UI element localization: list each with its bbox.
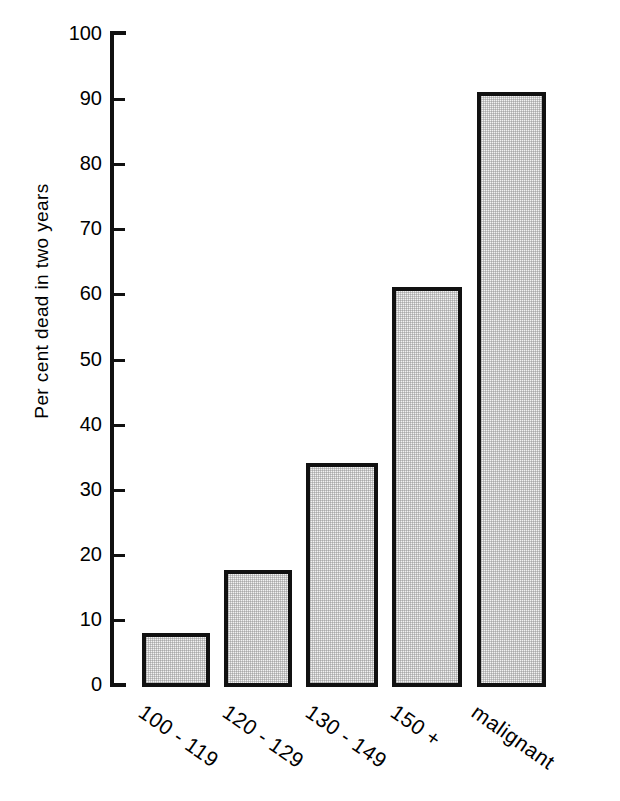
x-tick-label-150-plus: 150 + <box>386 700 445 752</box>
x-tick-label-130-149: 130 - 149 <box>301 700 391 773</box>
y-tick-label-40: 40 <box>46 414 102 434</box>
y-tick-label-50: 50 <box>46 349 102 369</box>
y-tick-90 <box>110 98 125 101</box>
bar-100-119[interactable] <box>142 633 210 687</box>
bar-150-plus[interactable] <box>392 287 462 687</box>
x-tick-label-100-119: 100 - 119 <box>134 700 223 772</box>
y-tick-10 <box>110 619 125 622</box>
y-tick-80 <box>110 163 125 166</box>
y-tick-label-10: 10 <box>46 609 102 629</box>
y-tick-60 <box>110 293 125 296</box>
y-tick-label-90: 90 <box>46 88 102 108</box>
x-tick-label-malignant: malignant <box>467 700 559 774</box>
y-tick-70 <box>110 228 125 231</box>
y-axis-top-cap <box>110 31 126 35</box>
y-axis-bottom-cap <box>110 683 126 687</box>
y-tick-label-100: 100 <box>46 23 102 43</box>
bar-130-149[interactable] <box>306 463 378 687</box>
y-tick-label-80: 80 <box>46 153 102 173</box>
y-tick-40 <box>110 424 125 427</box>
y-tick-30 <box>110 489 125 492</box>
y-tick-label-20: 20 <box>46 544 102 564</box>
y-tick-20 <box>110 554 125 557</box>
y-tick-label-70: 70 <box>46 218 102 238</box>
x-tick-label-120-129: 120 - 129 <box>218 700 308 773</box>
bar-malignant[interactable] <box>477 92 546 687</box>
y-tick-label-0: 0 <box>46 674 102 694</box>
bar-chart: Per cent dead in two years 100 90 80 70 … <box>0 0 620 801</box>
y-tick-50 <box>110 359 125 362</box>
bar-120-129[interactable] <box>224 570 292 687</box>
y-tick-label-60: 60 <box>46 283 102 303</box>
y-tick-label-30: 30 <box>46 479 102 499</box>
